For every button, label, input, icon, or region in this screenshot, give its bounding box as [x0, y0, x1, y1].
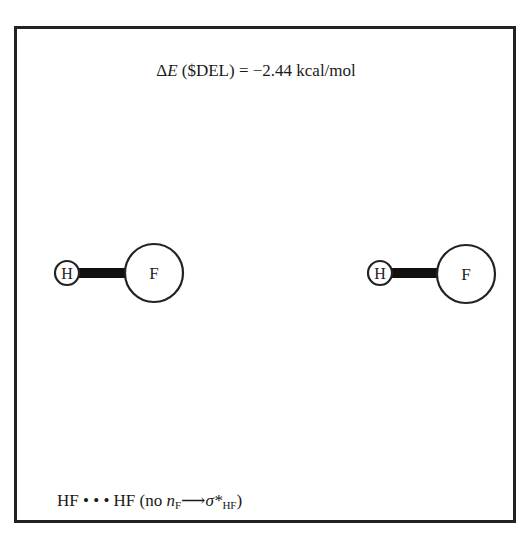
bond-hf-left — [78, 268, 128, 278]
bond-hf-right — [391, 268, 441, 278]
atom-f-right-label: F — [461, 265, 470, 284]
atom-h-left-label: H — [61, 265, 73, 282]
molecule-drawing: H F H F — [0, 0, 531, 548]
hf-molecule-left: H F — [55, 244, 183, 302]
atom-f-left-label: F — [149, 264, 158, 283]
hf-molecule-right: H F — [368, 245, 495, 303]
atom-h-right-label: H — [374, 265, 386, 282]
